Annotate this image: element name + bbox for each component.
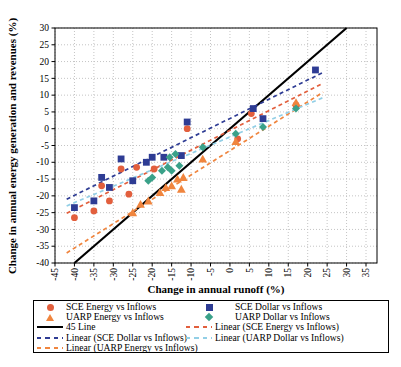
x-tick-label: 5 [245, 268, 255, 273]
series-uarp-dollar-vs-inflows [144, 105, 300, 185]
x-tick-label: -45 [50, 268, 60, 281]
y-tick-label: 15 [40, 74, 50, 84]
legend-label: 45 Line [66, 322, 96, 332]
data-point [184, 119, 191, 126]
y-tick-label: 20 [40, 57, 50, 67]
legend-label: Linear (UARP Dollar vs Inflows) [215, 333, 344, 343]
y-tick-label: 10 [40, 90, 50, 100]
x-tick-labels: -45-40-35-30-25-20-15-10-505101520253035 [50, 268, 371, 281]
x-tick-label: -35 [89, 268, 99, 281]
data-point [71, 214, 78, 221]
legend-label: Linear (SCE Energy vs Inflows) [215, 322, 339, 332]
y-tick-label: 30 [40, 23, 50, 33]
y-tick-label: -5 [41, 141, 49, 151]
data-point [178, 152, 185, 159]
data-point [143, 159, 150, 166]
y-tick-label: -20 [36, 191, 49, 201]
data-point [125, 191, 132, 198]
y-tick-label: -15 [36, 174, 49, 184]
y-tick-label: -40 [36, 258, 49, 268]
dashed-line-icon [37, 337, 63, 339]
diamond-marker-icon [205, 313, 213, 321]
data-point [133, 164, 140, 171]
data-point [106, 197, 113, 204]
y-tick-labels: 302520151050-5-10-15-20-25-30-35-40 [36, 23, 49, 268]
x-tick-label: -5 [206, 268, 216, 276]
solid-line-icon [37, 326, 63, 328]
trend-line [67, 83, 324, 213]
y-tick-label: 0 [44, 124, 49, 134]
data-point [71, 204, 78, 211]
x-tick-label: 30 [342, 268, 352, 278]
y-axis-title: Change in annual energy generation and r… [6, 18, 18, 274]
dashed-line-icon [186, 326, 212, 328]
y-tick-label: -35 [36, 241, 49, 251]
data-point [312, 67, 319, 74]
legend-label: Linear (UARP Energy vs Inflows) [66, 343, 198, 353]
triangle-marker-icon [46, 314, 54, 321]
data-point [90, 208, 97, 215]
data-point [98, 174, 105, 181]
trend-line [67, 92, 324, 253]
y-tick-label: 5 [44, 107, 49, 117]
legend-column-2: SCE Dollar vs Inflows UARP Dollar vs Inf… [186, 302, 344, 343]
trend-line [67, 97, 324, 205]
x-tick-label: -40 [70, 268, 80, 281]
square-marker-icon [206, 304, 213, 311]
data-point [106, 184, 113, 191]
legend-item-linear-uarp-energy: Linear (UARP Energy vs Inflows) [37, 343, 198, 353]
data-point [118, 156, 125, 163]
x-axis-title: Change in annual runoff (%) [148, 283, 285, 295]
x-tick-label: -15 [167, 268, 177, 281]
x-tick-label: -25 [128, 268, 138, 281]
data-point [177, 185, 186, 193]
x-tick-label: 15 [283, 268, 293, 278]
dashed-line-icon [186, 337, 212, 339]
dashed-line-icon [37, 347, 63, 349]
y-tick-label: -10 [36, 157, 49, 167]
gridlines [55, 28, 377, 263]
circle-marker-icon [47, 304, 54, 311]
data-point [175, 162, 183, 170]
legend-box: SCE Energy vs Inflows UARP Energy vs Inf… [33, 300, 389, 353]
y-tick-label: -25 [36, 208, 49, 218]
x-tick-label: 20 [303, 268, 313, 278]
x-tick-label: -20 [147, 268, 157, 281]
data-point [151, 166, 158, 173]
data-point [98, 182, 105, 189]
data-point [260, 115, 267, 122]
data-point [179, 173, 188, 181]
data-point [118, 166, 125, 173]
data-point [250, 105, 257, 112]
trend-line [67, 72, 324, 199]
data-point [90, 197, 97, 204]
legend-item-linear-uarp-dollar: Linear (UARP Dollar vs Inflows) [186, 333, 344, 343]
data-point [149, 154, 156, 161]
x-tick-label: 25 [322, 268, 332, 278]
scatter-chart-figure: 302520151050-5-10-15-20-25-30-35-40-45-4… [0, 0, 401, 367]
series-sce-dollar-vs-inflows [71, 67, 319, 211]
data-point [129, 177, 136, 184]
legend-column-1: SCE Energy vs Inflows UARP Energy vs Inf… [37, 302, 198, 353]
x-tick-label: 10 [264, 268, 274, 278]
x-tick-label: -10 [186, 268, 196, 281]
x-tick-label: -30 [109, 268, 119, 281]
y-tick-label: -30 [36, 225, 49, 235]
x-tick-label: 35 [361, 268, 371, 278]
legend-item-uarp-energy: UARP Energy vs Inflows [37, 312, 198, 322]
x-tick-label: 0 [225, 268, 235, 273]
y-tick-label: 25 [40, 40, 50, 50]
data-points [71, 67, 319, 222]
data-point [184, 125, 191, 132]
